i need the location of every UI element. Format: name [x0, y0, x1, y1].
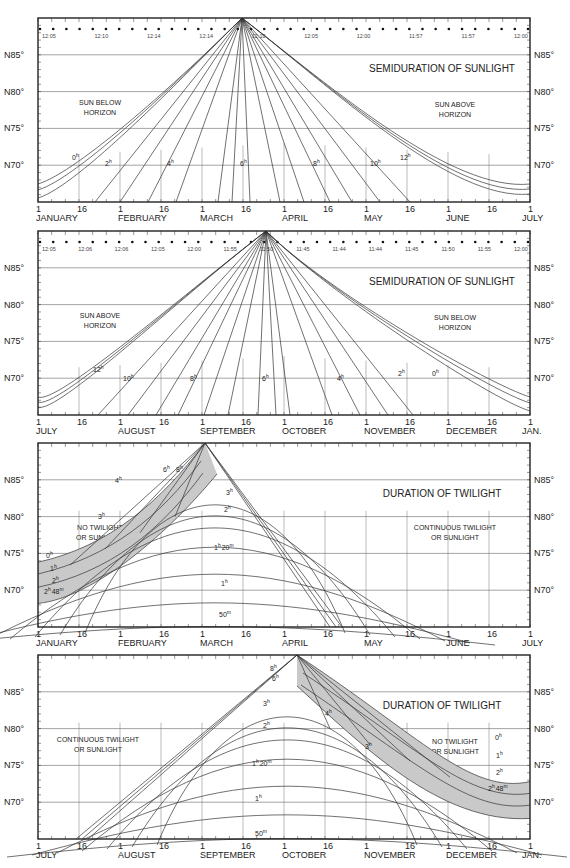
meridian-passage-dot [184, 28, 187, 31]
month-label: MAY [364, 213, 383, 223]
month-label: JAN. [522, 426, 542, 436]
meridian-passage-time: 11:55 [224, 246, 237, 252]
meridian-passage-dot [461, 28, 464, 31]
month-label: NOVEMBER [364, 426, 416, 436]
panel-title: SEMIDURATION OF SUNLIGHT [369, 63, 515, 74]
curve-label: 10h​ [123, 373, 134, 382]
month-label: SEPTEMBER [200, 850, 256, 860]
region-label-left: OR SUNLIGHT [74, 746, 123, 753]
meridian-passage-time: 11:45 [405, 246, 418, 252]
day-tick-label: 16 [77, 417, 87, 427]
latitude-label-right: N75° [534, 760, 555, 770]
month-label: APRIL [282, 638, 308, 648]
meridian-passage-time: 11:57 [462, 33, 475, 39]
month-label: JULY [36, 850, 57, 860]
latitude-label-left: N80° [4, 512, 25, 522]
meridian-passage-dot [342, 28, 345, 31]
region-label-left: HORIZON [84, 322, 116, 329]
meridian-passage-dot [197, 28, 200, 31]
month-label: SEPTEMBER [200, 426, 256, 436]
meridian-passage-dot [408, 241, 411, 244]
meridian-passage-dot [474, 28, 477, 31]
meridian-passage-time: 11:55 [478, 246, 491, 252]
day-tick-label: 16 [487, 629, 497, 639]
meridian-passage-dot [289, 241, 292, 244]
curve-label: 4h​ [115, 475, 122, 484]
day-tick-label: 16 [159, 417, 169, 427]
meridian-passage-dot [223, 241, 226, 244]
meridian-passage-dot [131, 28, 134, 31]
latitude-label-left: N80° [4, 300, 25, 310]
latitude-label-left: N85° [4, 50, 25, 60]
region-label-right: CONTINUOUS TWILIGHT [414, 524, 497, 531]
meridian-passage-time: 11:50 [441, 246, 454, 252]
latitude-label-left: N75° [4, 123, 25, 133]
meridian-passage-time: 11:44 [369, 246, 382, 252]
meridian-passage-dot [131, 241, 134, 244]
twilight-duration-curve [0, 603, 470, 643]
meridian-passage-time: 11:44 [332, 246, 345, 252]
curve-label: 1h​20m​ [214, 542, 234, 551]
meridian-passage-dot [302, 241, 305, 244]
latitude-label-right: N75° [534, 548, 555, 558]
meridian-passage-dot [237, 241, 240, 244]
latitude-label-left: N80° [4, 87, 25, 97]
region-label-right: SUN BELOW [434, 314, 476, 321]
twilight-sunlight-nomograms: N85°N85°N80°N80°N75°N75°N70°N70°11611611… [0, 0, 570, 868]
latitude-label-right: N80° [534, 87, 555, 97]
meridian-passage-dot [500, 28, 503, 31]
curve-label: 3h​ [226, 487, 233, 496]
latitude-label-left: N75° [4, 760, 25, 770]
meridian-passage-dot [39, 28, 42, 31]
month-label: MAY [364, 638, 383, 648]
month-label: JUNE [446, 213, 470, 223]
curve-label: 1h​ [221, 578, 228, 587]
meridian-passage-dot [316, 28, 319, 31]
meridian-passage-dot [144, 28, 147, 31]
curve-label: 2h​ [105, 158, 112, 167]
curve-label: 2h​ [224, 504, 231, 513]
month-label: JULY [522, 638, 543, 648]
curve-label: 6h​ [262, 373, 269, 382]
meridian-passage-time: 12:00 [357, 33, 371, 39]
twilight-shaded-band [38, 443, 217, 603]
meridian-passage-dot [302, 28, 305, 31]
meridian-passage-dot [474, 241, 477, 244]
curve-label: 10h​ [370, 158, 381, 167]
meridian-passage-dot [65, 241, 68, 244]
meridian-passage-dot [434, 241, 437, 244]
meridian-passage-dot [395, 28, 398, 31]
latitude-label-left: N80° [4, 724, 25, 734]
latitude-label-right: N75° [534, 123, 555, 133]
month-label: APRIL [282, 213, 308, 223]
latitude-label-right: N85° [534, 687, 555, 697]
meridian-passage-dot [118, 28, 121, 31]
meridian-passage-time: 12:05 [42, 33, 56, 39]
meridian-passage-time: 12:06 [115, 246, 129, 252]
meridian-passage-time: 12:05 [151, 246, 165, 252]
meridian-passage-dot [342, 241, 345, 244]
meridian-passage-time: 12:00 [187, 246, 201, 252]
curve-label: 50m​ [219, 609, 231, 618]
day-tick-label: 16 [405, 204, 415, 214]
region-label-left: SUN BELOW [79, 99, 121, 106]
panel-3: N85°N85°N80°N80°N75°N75°N70°N70°11611611… [0, 443, 555, 648]
latitude-label-left: N75° [4, 336, 25, 346]
region-label-left: SUN ABOVE [80, 312, 121, 319]
month-label: FEBRUARY [118, 213, 167, 223]
meridian-passage-dot [157, 28, 160, 31]
month-label: OCTOBER [282, 426, 327, 436]
curve-label: 6h​ [240, 158, 247, 167]
day-tick-label: 16 [487, 204, 497, 214]
latitude-label-left: N85° [4, 687, 25, 697]
panel-2: N85°N85°N80°N80°N75°N75°N70°N70°11611611… [4, 231, 555, 436]
meridian-passage-dot [105, 241, 108, 244]
meridian-passage-dot [368, 241, 371, 244]
curve-label: 6h​ [272, 673, 279, 682]
curve-label: 1h​ [496, 750, 503, 759]
meridian-passage-dot [316, 241, 319, 244]
meridian-passage-time: 11:45 [296, 246, 309, 252]
region-label-right: OR SUNLIGHT [431, 534, 480, 541]
meridian-passage-dot [382, 28, 385, 31]
panel-4: N85°N85°N80°N80°N75°N75°N70°N70°11611611… [4, 655, 567, 860]
